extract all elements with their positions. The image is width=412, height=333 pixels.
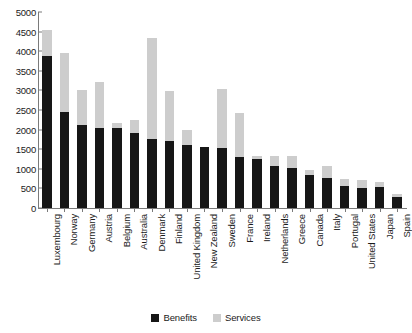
x-axis-category-label: United States bbox=[366, 214, 377, 269]
x-axis-category-label: Norway bbox=[68, 214, 79, 245]
x-axis-tick-mark bbox=[187, 208, 188, 212]
bar-group bbox=[235, 113, 245, 208]
x-axis-tick-mark bbox=[362, 208, 363, 212]
bar-group bbox=[305, 170, 315, 208]
bar-segment-services bbox=[77, 90, 87, 124]
y-axis-tick-label: 1500 bbox=[0, 144, 36, 155]
x-axis-tick-mark bbox=[64, 208, 65, 212]
bar-segment-benefits bbox=[182, 145, 192, 208]
bar-segment-services bbox=[270, 156, 280, 166]
x-axis-tick-mark bbox=[134, 208, 135, 212]
bar-segment-benefits bbox=[340, 186, 350, 208]
x-axis-category-label: Italy bbox=[331, 214, 342, 231]
y-axis-tick-label: 4000 bbox=[0, 46, 36, 57]
x-axis-tick-mark bbox=[345, 208, 346, 212]
x-axis-tick-mark bbox=[292, 208, 293, 212]
bar-segment-benefits bbox=[217, 148, 227, 208]
y-axis-tick-label: 4500 bbox=[0, 26, 36, 37]
legend-item: Benefits bbox=[151, 312, 197, 323]
square-swatch-icon bbox=[151, 314, 159, 322]
x-axis-tick-mark bbox=[47, 208, 48, 212]
y-axis-tick-label: 3000 bbox=[0, 85, 36, 96]
x-axis-category-label: Portugal bbox=[349, 214, 360, 248]
bar-group bbox=[42, 30, 52, 208]
x-axis-tick-mark bbox=[275, 208, 276, 212]
bar-segment-services bbox=[357, 180, 367, 187]
bar-group bbox=[287, 156, 297, 209]
bar-group bbox=[252, 156, 262, 208]
x-axis-category-label: Ireland bbox=[261, 214, 272, 242]
bar-segment-services bbox=[130, 120, 140, 133]
square-swatch-icon bbox=[213, 314, 221, 322]
bar-group bbox=[270, 156, 280, 208]
x-axis-category-label: Denmark bbox=[156, 214, 167, 252]
x-axis-tick-mark bbox=[222, 208, 223, 212]
bar-group bbox=[95, 82, 105, 208]
bar-segment-services bbox=[322, 166, 332, 178]
bar-group bbox=[340, 179, 350, 208]
x-axis-category-label: Greece bbox=[296, 214, 307, 244]
y-axis-tick-label: 2500 bbox=[0, 105, 36, 116]
x-axis-category-label: United Kingdom bbox=[191, 214, 202, 280]
bar-segment-services bbox=[60, 53, 70, 112]
x-axis-category-label: Belgium bbox=[121, 214, 132, 247]
x-axis-category-label: Austria bbox=[103, 214, 114, 243]
bar-segment-services bbox=[182, 130, 192, 145]
bar-segment-services bbox=[340, 179, 350, 186]
legend-label: Services bbox=[225, 312, 261, 323]
x-axis-category-label: Australia bbox=[138, 214, 149, 250]
x-axis-category-label: Netherlands bbox=[279, 214, 290, 264]
x-axis-category-label: Sweden bbox=[226, 214, 237, 247]
x-axis-tick-mark bbox=[397, 208, 398, 212]
bar-group bbox=[130, 120, 140, 208]
stacked-bar-chart: 5000450040003500300025002000150010005000… bbox=[0, 0, 412, 333]
bar-group bbox=[77, 90, 87, 208]
bar-segment-benefits bbox=[130, 133, 140, 208]
bar-group bbox=[392, 194, 402, 208]
x-axis-category-label: Luxembourg bbox=[51, 214, 62, 265]
bar-segment-services bbox=[147, 38, 157, 138]
bar-group bbox=[357, 180, 367, 208]
bar-group bbox=[60, 53, 70, 208]
bar-group bbox=[322, 166, 332, 208]
y-axis-tick-label: 0 bbox=[0, 203, 36, 214]
x-axis-tick-mark bbox=[240, 208, 241, 212]
x-axis-category-label: New Zealand bbox=[208, 214, 219, 268]
x-axis-category-label: Japan bbox=[384, 214, 395, 239]
y-axis-tick-label: 5000 bbox=[0, 7, 36, 18]
x-axis-tick-mark bbox=[204, 208, 205, 212]
bar-segment-benefits bbox=[322, 178, 332, 208]
bar-segment-benefits bbox=[252, 159, 262, 208]
x-axis-tick-mark bbox=[257, 208, 258, 212]
bar-segment-benefits bbox=[95, 128, 105, 208]
legend-item: Services bbox=[213, 312, 261, 323]
bar-segment-benefits bbox=[375, 187, 385, 208]
x-axis-tick-mark bbox=[117, 208, 118, 212]
bar-segment-benefits bbox=[112, 128, 122, 208]
y-axis-tick-label: 3500 bbox=[0, 65, 36, 76]
x-axis-tick-mark bbox=[99, 208, 100, 212]
y-axis-tick-label: 1000 bbox=[0, 163, 36, 174]
bar-segment-benefits bbox=[165, 141, 175, 208]
bar-segment-services bbox=[217, 89, 227, 148]
x-axis-tick-mark bbox=[152, 208, 153, 212]
x-axis-category-label: France bbox=[244, 214, 255, 243]
bar-segment-benefits bbox=[392, 197, 402, 208]
bar-segment-benefits bbox=[305, 175, 315, 208]
bar-segment-benefits bbox=[235, 157, 245, 208]
x-axis-tick-mark bbox=[380, 208, 381, 212]
legend-label: Benefits bbox=[163, 312, 197, 323]
x-axis-tick-mark bbox=[310, 208, 311, 212]
x-axis-category-label: Finland bbox=[173, 214, 184, 244]
bar-segment-benefits bbox=[77, 125, 87, 208]
x-axis-tick-mark bbox=[169, 208, 170, 212]
x-axis-category-label: Spain bbox=[401, 214, 412, 238]
bar-segment-services bbox=[165, 91, 175, 141]
bar-segment-benefits bbox=[357, 188, 367, 208]
y-axis-tick-label: 2000 bbox=[0, 124, 36, 135]
bar-segment-benefits bbox=[200, 147, 210, 208]
bar-group bbox=[375, 182, 385, 208]
plot-area bbox=[38, 12, 406, 208]
bar-group bbox=[217, 89, 227, 208]
chart-legend: BenefitsServices bbox=[0, 312, 412, 323]
